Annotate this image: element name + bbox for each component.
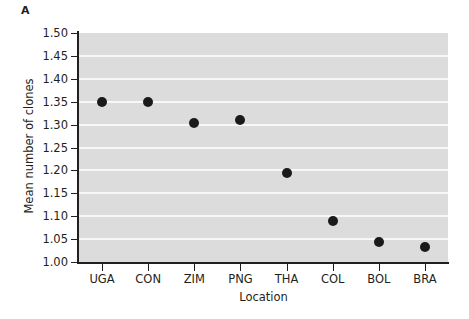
gridline [79,124,448,126]
data-point-uga [97,97,107,107]
y-axis-tick-label: 1.40 [8,73,68,85]
y-axis-tick [71,216,78,217]
y-axis-tick [71,56,78,57]
gridline [79,215,448,217]
x-axis-tick-label-bra: BRA [395,273,455,286]
y-axis-tick [71,148,78,149]
panel-label: A [21,4,30,18]
data-point-png [235,115,245,125]
gridline [79,55,448,57]
y-axis-tick-label: 1.30 [8,119,68,131]
x-axis-title: Location [79,290,448,304]
y-axis-tick [71,262,78,263]
y-axis-tick-label: 1.05 [8,233,68,245]
y-axis-tick-label: 1.50 [8,27,68,39]
y-axis-tick [71,79,78,80]
gridline [79,147,448,149]
gridline [79,238,448,240]
y-axis-tick [71,170,78,171]
y-axis-tick-label: 1.20 [8,164,68,176]
y-axis-tick [71,33,78,34]
gridline [79,78,448,80]
x-axis-tick [379,264,380,271]
gridline [79,192,448,194]
x-axis-tick [240,264,241,271]
y-axis-tick-label: 1.45 [8,50,68,62]
data-point-col [328,216,338,226]
y-axis-tick [71,125,78,126]
y-axis-tick-label: 1.15 [8,187,68,199]
x-axis-tick [194,264,195,271]
figure-panel-a: A Mean number of clones 1.001.051.101.15… [0,0,469,319]
plot-area [79,33,448,262]
y-axis-tick [71,193,78,194]
x-axis-tick [425,264,426,271]
y-axis-tick-label: 1.25 [8,142,68,154]
y-axis-tick-label: 1.00 [8,256,68,268]
x-axis-tick [287,264,288,271]
y-axis-tick-label: 1.10 [8,210,68,222]
y-axis-tick-label: 1.35 [8,96,68,108]
x-axis-tick [102,264,103,271]
x-axis-tick [333,264,334,271]
data-point-tha [282,168,292,178]
y-axis-tick [71,239,78,240]
gridline [79,101,448,103]
x-axis-line [77,262,449,264]
x-axis-tick [148,264,149,271]
y-axis-tick [71,102,78,103]
gridline [79,169,448,171]
data-point-con [143,97,153,107]
